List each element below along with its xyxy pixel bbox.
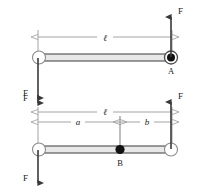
lower-diagram: ℓ a b B F F F	[23, 91, 183, 183]
upper-bar-left-pin-joint	[33, 51, 46, 64]
upper-diagram: ℓ A F F	[23, 6, 183, 98]
figure-container: ℓ A F F ℓ	[0, 0, 200, 190]
mechanics-diagram-svg: ℓ A F F ℓ	[0, 0, 200, 190]
lower-segment-b-label: b	[145, 117, 150, 127]
lower-force-up-label: F	[178, 91, 183, 101]
lower-length-label: ℓ	[103, 107, 107, 117]
lower-bar-left-pin-joint	[33, 143, 46, 156]
upper-force-up-label: F	[178, 6, 183, 16]
lower-bar-point-b-dot	[115, 145, 124, 154]
upper-point-a-label: A	[168, 66, 175, 76]
lower-force-down-bottom-label: F	[23, 173, 28, 183]
upper-bar	[38, 54, 172, 61]
lower-bar	[38, 146, 172, 153]
lower-segment-a-label: a	[76, 117, 81, 127]
lower-point-b-label: B	[117, 158, 123, 168]
lower-force-down-top-label: F	[23, 93, 28, 103]
upper-length-label: ℓ	[103, 33, 107, 43]
